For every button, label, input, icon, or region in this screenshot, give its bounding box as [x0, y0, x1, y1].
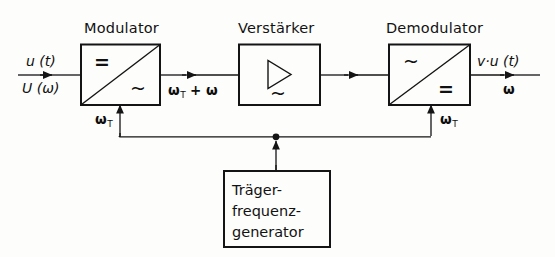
- carrier-left-label: ωT: [95, 113, 112, 127]
- modulator-block: [81, 45, 160, 106]
- output-time-label: v·u (t): [477, 54, 519, 68]
- generator-line-2: frequenz-: [232, 203, 328, 219]
- input-spectrum-label: U (ω): [22, 81, 59, 95]
- omega-subscript: T: [452, 119, 458, 129]
- demodulator-ac-symbol: ~: [403, 52, 419, 71]
- demodulator-dc-symbol: =: [438, 80, 454, 99]
- intermediate-frequency-label: ωT + ω: [168, 84, 218, 98]
- output-frequency-label: ω: [503, 83, 515, 97]
- demodulator-block: [389, 45, 470, 106]
- input-time-label: u (t): [26, 54, 56, 68]
- carrier-right-label: ωT: [440, 113, 457, 127]
- generator-line-3: generator: [232, 224, 328, 240]
- omega-glyph: ω: [168, 82, 180, 98]
- modulator-ac-symbol: ~: [130, 79, 146, 98]
- omega-subscript: T: [107, 119, 113, 129]
- amplifier-title: Verstärker: [238, 21, 315, 36]
- amplifier-ac-symbol: ~: [270, 84, 286, 103]
- omega-sum-rest: + ω: [185, 82, 217, 98]
- generator-line-1: Träger-: [232, 182, 328, 198]
- omega-glyph: ω: [95, 111, 107, 127]
- modulator-title: Modulator: [84, 21, 159, 36]
- demodulator-title: Demodulator: [386, 21, 483, 36]
- omega-glyph: ω: [440, 111, 452, 127]
- carrier-network: [119, 105, 431, 171]
- block-diagram: Modulator Verstärker Demodulator = ~ ~ =…: [0, 0, 555, 257]
- omega-subscript: T: [180, 90, 186, 100]
- modulator-dc-symbol: =: [94, 53, 110, 72]
- generator-label: Träger- frequenz- generator: [232, 182, 328, 245]
